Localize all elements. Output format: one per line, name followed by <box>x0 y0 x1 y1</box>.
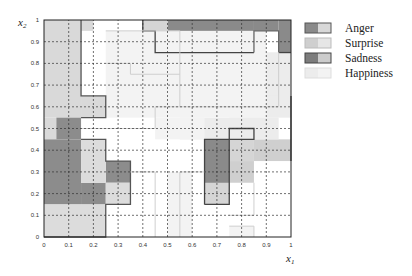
y-axis-label: x2 <box>17 16 27 30</box>
legend-item-happiness: Happiness <box>305 67 393 80</box>
x-tick-label: 0.2 <box>89 242 98 248</box>
x-tick-label: 0.5 <box>163 242 172 248</box>
x-axis-ticks: 00.10.20.30.40.50.60.70.80.91 <box>42 242 293 248</box>
x-tick-label: 0.8 <box>237 242 246 248</box>
y-tick-label: 0.1 <box>31 212 40 218</box>
y-tick-label: 0.3 <box>31 169 40 175</box>
region-anger <box>279 20 291 53</box>
legend-label: Anger <box>345 22 374 35</box>
legend-swatch <box>305 38 318 48</box>
y-tick-label: 0.8 <box>31 60 40 66</box>
legend: AngerSurpriseSadnessHappiness <box>305 22 393 80</box>
x-axis-label: x1 <box>285 252 294 266</box>
legend-swatch <box>318 68 331 78</box>
region-anger <box>254 20 279 31</box>
x-tick-label: 0.6 <box>188 242 197 248</box>
legend-swatch <box>305 53 318 63</box>
region-happiness <box>106 31 267 118</box>
y-axis-ticks: 00.10.20.30.40.50.60.70.80.91 <box>31 17 40 240</box>
x-tick-label: 0.7 <box>213 242 222 248</box>
legend-label: Surprise <box>345 37 383 50</box>
x-tick-label: 0 <box>42 242 46 248</box>
legend-swatch <box>305 68 318 78</box>
y-tick-label: 0 <box>36 234 40 240</box>
y-tick-label: 0.7 <box>31 82 40 88</box>
legend-item-anger: Anger <box>305 22 374 35</box>
decision-region-chart: 00.10.20.30.40.50.60.70.80.91 00.10.20.3… <box>0 0 412 276</box>
y-tick-label: 0.4 <box>31 147 40 153</box>
y-tick-label: 0.2 <box>31 191 40 197</box>
legend-item-surprise: Surprise <box>305 37 383 50</box>
region-surprise <box>81 20 93 31</box>
x-tick-label: 0.9 <box>262 242 271 248</box>
legend-swatch <box>318 23 331 33</box>
legend-swatch <box>318 38 331 48</box>
y-tick-label: 0.5 <box>31 126 40 132</box>
legend-item-sadness: Sadness <box>305 52 383 64</box>
region-surprise <box>44 204 106 237</box>
x-tick-label: 0.4 <box>139 242 148 248</box>
legend-swatch <box>305 23 318 33</box>
y-tick-label: 0.9 <box>31 39 40 45</box>
legend-label: Sadness <box>345 52 383 64</box>
region-anger <box>143 20 168 31</box>
x-tick-label: 0.1 <box>65 242 74 248</box>
y-tick-label: 0.6 <box>31 104 40 110</box>
legend-swatch <box>318 53 331 63</box>
x-tick-label: 1 <box>289 242 293 248</box>
region-surprise <box>44 20 81 118</box>
y-tick-label: 1 <box>36 17 40 23</box>
x-tick-label: 0.3 <box>114 242 123 248</box>
legend-label: Happiness <box>345 67 393 80</box>
